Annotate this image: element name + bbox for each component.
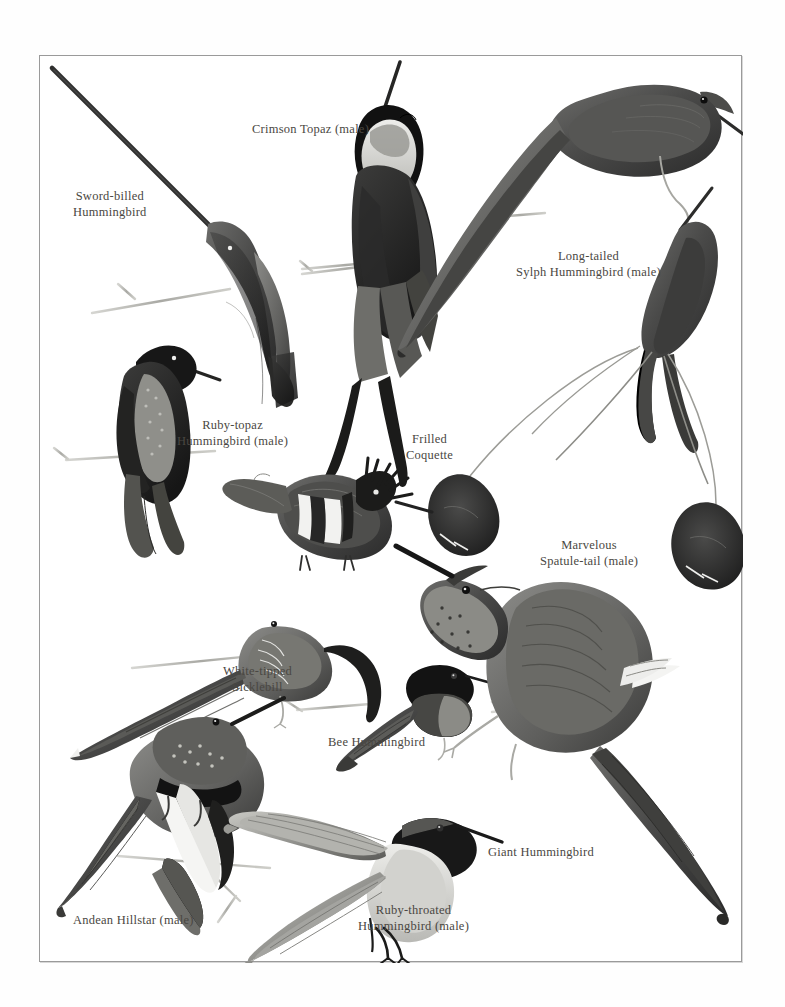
label-line-2: Sylph Hummingbird (male) [516, 264, 661, 280]
label-line-1: Marvelous [540, 537, 638, 553]
label-line-2: Sicklebill [223, 679, 292, 695]
label-andean-hillstar: Andean Hillstar (male) [73, 912, 194, 928]
label-bee-hummingbird: Bee Hummingbird [328, 734, 425, 750]
label-ruby-topaz-hummingbird: Ruby-topaz Hummingbird (male) [177, 417, 288, 449]
label-ruby-throated-hummingbird: Ruby-throated Hummingbird (male) [358, 902, 469, 934]
label-line-1: Frilled [406, 431, 453, 447]
label-line-1: Ruby-topaz [177, 417, 288, 433]
label-line-1: Sword-billed [73, 188, 147, 204]
label-white-tipped-sicklebill: White-tipped Sicklebill [223, 663, 292, 695]
label-line-1: Crimson Topaz (male) [252, 121, 369, 137]
label-giant-hummingbird: Giant Hummingbird [488, 844, 594, 860]
label-frilled-coquette: Frilled Coquette [406, 431, 453, 463]
label-line-2: Hummingbird [73, 204, 147, 220]
plate-frame: Sword-billed Hummingbird Crimson Topaz (… [39, 55, 742, 962]
label-long-tailed-sylph-hummingbird: Long-tailed Sylph Hummingbird (male) [516, 248, 661, 280]
label-line-1: Long-tailed [516, 248, 661, 264]
label-line-1: Andean Hillstar (male) [73, 912, 194, 928]
label-line-2: Spatule-tail (male) [540, 553, 638, 569]
label-line-1: Giant Hummingbird [488, 844, 594, 860]
label-line-2: Hummingbird (male) [358, 918, 469, 934]
label-line-2: Hummingbird (male) [177, 433, 288, 449]
label-line-2: Coquette [406, 447, 453, 463]
label-line-1: Ruby-throated [358, 902, 469, 918]
label-sword-billed-hummingbird: Sword-billed Hummingbird [73, 188, 147, 220]
label-crimson-topaz: Crimson Topaz (male) [252, 121, 369, 137]
label-marvelous-spatuletail: Marvelous Spatule-tail (male) [540, 537, 638, 569]
label-line-1: White-tipped [223, 663, 292, 679]
label-line-1: Bee Hummingbird [328, 734, 425, 750]
plate-page: Sword-billed Hummingbird Crimson Topaz (… [0, 0, 785, 1007]
